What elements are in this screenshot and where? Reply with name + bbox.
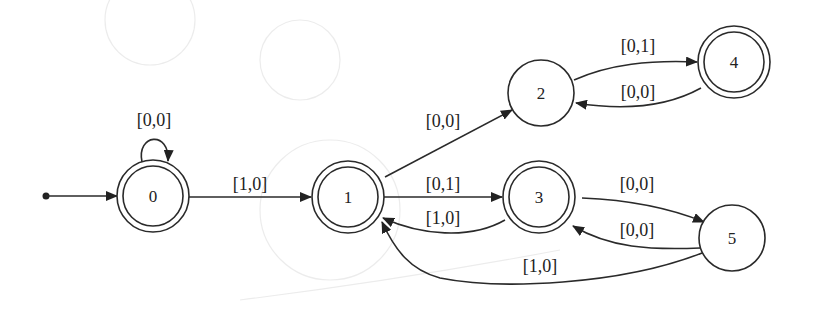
edge-label: [1,0]	[426, 208, 461, 228]
edge-4-2: [0,0]	[576, 82, 701, 107]
state-5[interactable]: 5	[699, 205, 765, 271]
edge-label: [0,1]	[426, 174, 461, 194]
edge-label: [0,0]	[426, 111, 461, 131]
edge-label: [0,0]	[137, 110, 172, 130]
bleed-through-artifacts	[105, 0, 560, 300]
state-1[interactable]: 1	[312, 161, 384, 233]
edge-1-2: [0,0]	[385, 110, 512, 177]
state-label: 3	[535, 188, 544, 207]
state-label: 0	[149, 187, 158, 206]
automaton-diagram: [0,0] [1,0] [0,0] [0,1] [1,0] [0,1] [0,0…	[0, 0, 816, 310]
start-arrow	[43, 193, 118, 200]
state-0[interactable]: 0	[117, 160, 189, 232]
edge-0-1: [1,0]	[189, 174, 311, 197]
edge-label: [0,1]	[621, 36, 656, 56]
state-label: 4	[730, 53, 739, 72]
state-label: 2	[537, 84, 546, 103]
edge-3-1: [1,0]	[383, 208, 505, 233]
state-label: 5	[728, 229, 737, 248]
state-label: 1	[344, 188, 353, 207]
state-3[interactable]: 3	[503, 161, 575, 233]
edge-label: [0,0]	[620, 220, 655, 240]
edge-label: [1,0]	[233, 174, 268, 194]
edge-label: [0,0]	[620, 174, 655, 194]
state-2[interactable]: 2	[508, 60, 574, 126]
edge-label: [1,0]	[523, 256, 558, 276]
edge-5-3: [0,0]	[573, 220, 700, 249]
edge-3-5: [0,0]	[582, 174, 704, 222]
edge-1-3: [0,1]	[384, 174, 502, 197]
edge-label: [0,0]	[621, 82, 656, 102]
edge-0-0: [0,0]	[137, 110, 172, 162]
edge-2-4: [0,1]	[574, 36, 697, 80]
state-4[interactable]: 4	[698, 26, 770, 98]
